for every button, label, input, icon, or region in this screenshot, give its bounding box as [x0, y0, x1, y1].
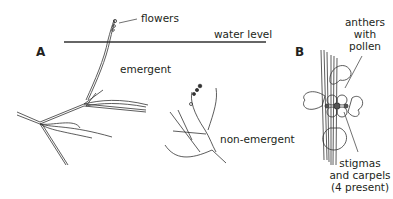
non-emergent-plant-drawing [165, 84, 226, 163]
anthers-with-pollen-label: anthers with pollen [340, 16, 390, 52]
panel-label-b: B [295, 45, 304, 59]
anthers-label-line3: pollen [340, 40, 390, 52]
anthers-label-line2: with [340, 28, 390, 40]
stigmas-label-line1: stigmas [328, 157, 392, 169]
flower-detail-drawing [304, 50, 363, 165]
emergent-label: emergent [120, 63, 171, 75]
stigmas-label-line3: (4 present) [328, 181, 392, 193]
stigmas-and-carpels-label: stigmas and carpels (4 present) [328, 157, 392, 193]
water-level-label: water level [214, 28, 272, 40]
stigmas-label-line2: and carpels [328, 169, 392, 181]
botanical-figure: A B flowers water level emergent non-eme… [0, 0, 393, 199]
anthers-label-line1: anthers [340, 16, 390, 28]
panel-label-a: A [36, 45, 45, 59]
flowers-label: flowers [141, 12, 179, 24]
emergent-plant-drawing [17, 19, 148, 165]
non-emergent-label: non-emergent [220, 133, 295, 145]
